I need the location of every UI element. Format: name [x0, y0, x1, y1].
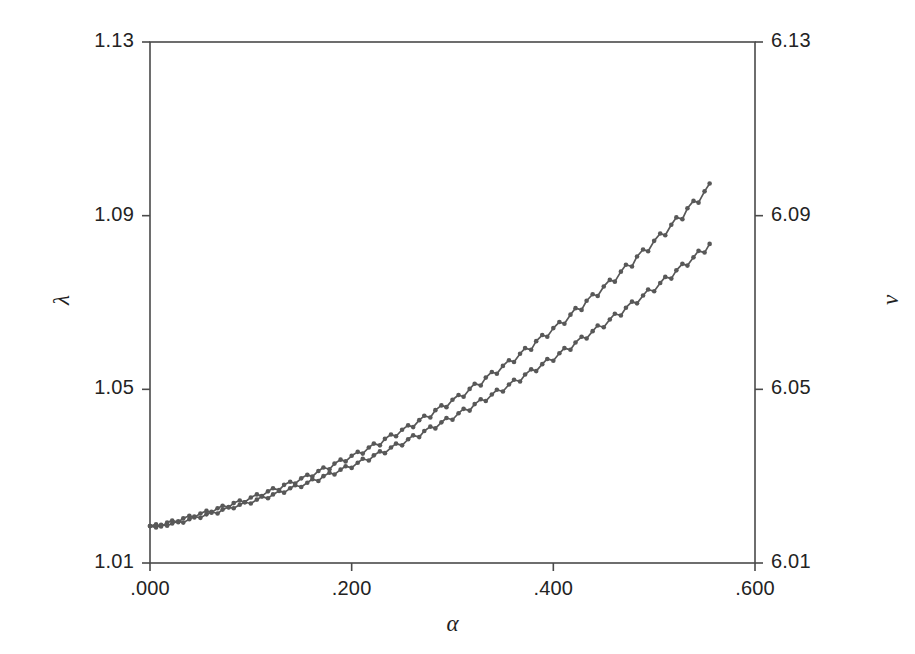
y-axis-tick-label: 1.09: [64, 203, 134, 226]
y-axis-tick-label: 1.05: [64, 376, 134, 399]
y2-axis-tick-label: 6.01: [771, 550, 841, 573]
y2-axis-tick-label: 6.13: [771, 29, 841, 52]
x-axis-tick-label: .200: [312, 577, 392, 600]
y2-axis-title: ν: [878, 270, 904, 330]
plot-frame: [150, 42, 755, 563]
y2-axis-tick-label: 6.05: [771, 376, 841, 399]
y-axis-tick-label: 1.01: [64, 550, 134, 573]
y-axis-tick-label: 1.13: [64, 29, 134, 52]
chart-figure: 1.01 1.05 1.09 1.13 6.01 6.05 6.09 6.13 …: [0, 0, 915, 654]
x-axis-tick-label: .000: [110, 577, 190, 600]
y-axis-title: λ: [49, 270, 75, 330]
y2-axis-tick-label: 6.09: [771, 203, 841, 226]
x-axis-tick-label: .600: [715, 577, 795, 600]
x-axis-title: α: [413, 611, 493, 637]
x-axis-tick-label: .400: [513, 577, 593, 600]
